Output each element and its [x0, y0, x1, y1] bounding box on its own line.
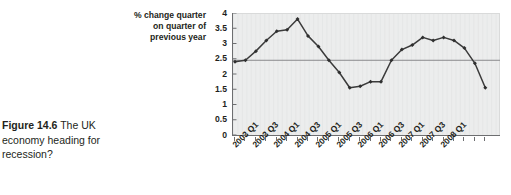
y-axis-tick-label: 1 [203, 100, 227, 109]
y-axis-tick-label: 3.5 [203, 24, 227, 33]
y-axis-tick-label: 3 [203, 39, 227, 48]
x-axis-tick [338, 137, 339, 141]
x-axis-tick [234, 137, 235, 141]
y-axis-tick-label: 0 [203, 131, 227, 140]
x-axis-tick [474, 137, 475, 141]
x-axis-tick [443, 137, 444, 141]
y-axis-tick-label: 4 [203, 9, 227, 18]
x-axis-tick [370, 137, 371, 141]
x-axis-tick [276, 137, 277, 141]
figure-caption: Figure 14.6 The UK economy heading for r… [2, 118, 134, 162]
x-axis-tick [255, 137, 256, 141]
x-axis-tick [432, 137, 433, 141]
x-axis-tick [307, 137, 308, 141]
figure-caption-label: Figure 14.6 [2, 119, 57, 131]
x-axis-tick [484, 137, 485, 141]
data-point-marker [431, 38, 435, 42]
y-axis-title-line-1: % change quarter [112, 10, 206, 21]
x-axis-tick [286, 137, 287, 141]
x-axis-tick [411, 137, 412, 141]
plot-area [232, 13, 500, 136]
x-axis-tick [265, 137, 266, 141]
line-chart-svg [233, 13, 500, 135]
x-axis-tick [390, 137, 391, 141]
x-axis-tick [297, 137, 298, 141]
y-axis-title: % change quarter on quarter of previous … [112, 10, 206, 44]
y-axis-tick-label: 0.5 [203, 115, 227, 124]
y-axis-title-line-2: on quarter of [112, 21, 206, 32]
y-axis-tick-label: 2 [203, 70, 227, 79]
y-axis-tick-label: 2.5 [203, 54, 227, 63]
figure-container: Figure 14.6 The UK economy heading for r… [0, 0, 511, 195]
x-axis-tick [317, 137, 318, 141]
data-line-uk-gdp-growth [235, 19, 485, 88]
data-point-marker [442, 35, 446, 39]
x-axis-tick [422, 137, 423, 141]
x-axis-tick [359, 137, 360, 141]
x-axis-tick [401, 137, 402, 141]
x-axis-tick [328, 137, 329, 141]
x-axis-tick [453, 137, 454, 141]
x-axis-tick [463, 137, 464, 141]
x-axis-tick [380, 137, 381, 141]
x-axis-tick [349, 137, 350, 141]
y-axis-title-line-3: previous year [112, 32, 206, 43]
y-axis-tick-label: 1.5 [203, 85, 227, 94]
x-axis-tick [244, 137, 245, 141]
